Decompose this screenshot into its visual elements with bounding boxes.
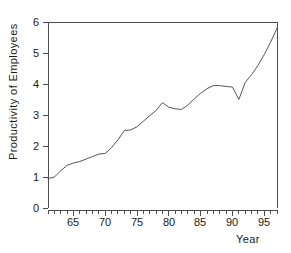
y-tick-label: 6 — [33, 16, 39, 28]
x-tick-label: 95 — [258, 216, 270, 228]
y-axis-ticks — [43, 22, 48, 208]
x-tick-label: 90 — [226, 216, 238, 228]
y-axis-title: Productivity of Employees — [7, 23, 19, 160]
x-axis-title: Year — [236, 233, 260, 245]
x-axis-tick-labels: 65 70 75 80 85 90 95 — [67, 216, 270, 228]
x-axis-minor-ticks — [48, 210, 277, 214]
y-axis-tick-labels: 0 1 2 3 4 5 6 — [33, 16, 39, 214]
y-tick-label: 2 — [33, 140, 39, 152]
line-chart: 0 1 2 3 4 5 6 65 70 75 80 85 90 95 Produ… — [0, 0, 291, 253]
x-tick-label: 65 — [67, 216, 79, 228]
y-tick-label: 1 — [33, 171, 39, 183]
x-tick-label: 75 — [131, 216, 143, 228]
y-tick-label: 4 — [33, 78, 39, 90]
y-tick-label: 5 — [33, 47, 39, 59]
chart-figure: 0 1 2 3 4 5 6 65 70 75 80 85 90 95 Produ… — [0, 0, 291, 253]
x-tick-label: 80 — [163, 216, 175, 228]
x-tick-label: 85 — [194, 216, 206, 228]
y-tick-label: 0 — [33, 202, 39, 214]
data-series-line — [48, 28, 277, 178]
x-tick-label: 70 — [99, 216, 111, 228]
y-tick-label: 3 — [33, 109, 39, 121]
